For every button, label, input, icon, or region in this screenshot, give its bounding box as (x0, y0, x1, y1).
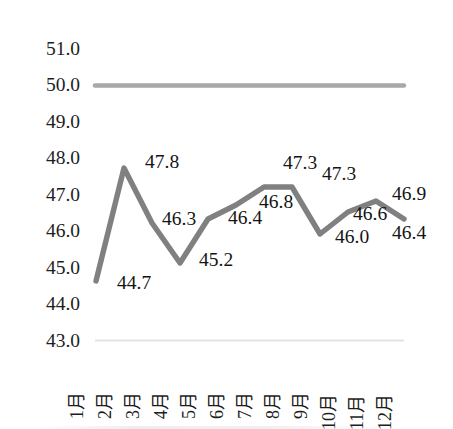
y-tick-label: 48.0 (18, 147, 80, 169)
data-label-mar: 46.3 (162, 208, 196, 230)
data-label-aug: 47.3 (322, 163, 356, 185)
x-tick-label-2: 2月 (90, 392, 116, 419)
x-tick-label-10: 10月 (314, 394, 340, 429)
y-tick-label: 51.0 (18, 38, 80, 60)
y-tick-label: 44.0 (18, 293, 80, 315)
x-tick-label-11: 11月 (342, 395, 368, 429)
x-tick-label-8: 8月 (258, 392, 284, 419)
data-label-nov: 46.9 (392, 183, 426, 205)
x-tick-label-1: 1月 (62, 392, 88, 419)
data-label-dec: 46.4 (392, 222, 426, 244)
y-tick-label: 43.0 (18, 330, 80, 352)
x-tick-label-4: 4月 (146, 392, 172, 419)
data-label-apr: 45.2 (199, 249, 233, 271)
data-label-sep: 46.0 (335, 226, 369, 248)
x-tick-label-9: 9月 (286, 392, 312, 419)
data-label-feb: 47.8 (145, 151, 179, 173)
x-tick-label-7: 7月 (230, 392, 256, 419)
data-label-oct: 46.6 (353, 203, 387, 225)
y-tick-label: 46.0 (18, 220, 80, 242)
y-tick-label: 50.0 (18, 74, 80, 96)
data-label-may: 46.4 (228, 207, 262, 229)
x-tick-label-6: 6月 (202, 392, 228, 419)
x-tick-label-5: 5月 (174, 392, 200, 419)
y-tick-label: 49.0 (18, 111, 80, 133)
data-label-jun: 46.8 (259, 191, 293, 213)
data-label-jan: 44.7 (117, 272, 151, 294)
x-tick-label-3: 3月 (118, 392, 144, 419)
x-tick-label-12: 12月 (370, 394, 396, 429)
y-tick-label: 47.0 (18, 184, 80, 206)
data-label-jul: 47.3 (283, 152, 317, 174)
y-tick-label: 45.0 (18, 257, 80, 279)
line-chart: 51.0 50.0 49.0 48.0 47.0 46.0 45.0 44.0 … (0, 0, 453, 429)
